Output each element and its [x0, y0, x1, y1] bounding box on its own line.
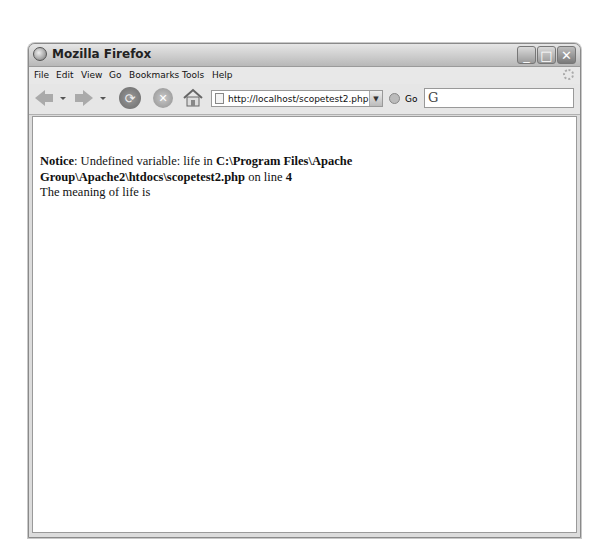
notice-line-number: 4 [286, 170, 292, 184]
title-bar[interactable]: Mozilla Firefox _ □ ✕ [29, 44, 580, 67]
menu-view[interactable]: View [81, 70, 102, 80]
menu-edit[interactable]: Edit [56, 70, 73, 80]
maximize-icon: □ [540, 49, 552, 62]
search-box[interactable]: G [424, 88, 574, 108]
page-icon [215, 93, 224, 104]
notice-message: : Undefined variable: life in [74, 154, 216, 168]
menu-help[interactable]: Help [212, 70, 233, 80]
close-icon: ✕ [561, 49, 572, 62]
window-title: Mozilla Firefox [52, 47, 151, 61]
throbber-icon [563, 69, 574, 80]
minimize-button[interactable]: _ [517, 46, 536, 64]
minimize-icon: _ [523, 49, 530, 62]
stop-icon: ✕ [158, 92, 167, 105]
go-button[interactable]: Go [389, 93, 417, 104]
back-dropdown-icon[interactable] [60, 97, 66, 100]
notice-on-line: on line [245, 170, 286, 184]
address-bar[interactable]: http://localhost/scopetest2.php ▼ [211, 90, 383, 107]
menu-bookmarks[interactable]: Bookmarks [129, 70, 179, 80]
reload-button[interactable]: ⟳ [119, 87, 141, 109]
go-label: Go [405, 94, 417, 104]
menu-tools[interactable]: Tools [182, 70, 204, 80]
reload-icon: ⟳ [125, 91, 136, 106]
menu-go[interactable]: Go [109, 70, 121, 80]
notice-label: Notice [40, 154, 74, 168]
back-button[interactable] [33, 89, 55, 107]
page-content: Notice: Undefined variable: life in C:\P… [32, 116, 577, 533]
php-output: Notice: Undefined variable: life in C:\P… [40, 154, 440, 201]
navigation-toolbar: ⟳ ✕ http://localhost/scopetest2.php ▼ Go… [29, 84, 580, 115]
home-button[interactable] [182, 87, 204, 109]
forward-dropdown-icon[interactable] [100, 97, 106, 100]
back-arrow-icon [35, 90, 45, 106]
url-input[interactable]: http://localhost/scopetest2.php [228, 94, 369, 104]
browser-window: Mozilla Firefox _ □ ✕ File Edit View Go … [28, 43, 581, 538]
search-engine-icon[interactable]: G [428, 90, 438, 105]
firefox-logo-icon [33, 47, 47, 61]
home-icon [182, 87, 204, 109]
menu-file[interactable]: File [34, 70, 49, 80]
stop-button[interactable]: ✕ [153, 88, 173, 108]
close-button[interactable]: ✕ [557, 46, 576, 64]
maximize-button[interactable]: □ [537, 46, 556, 64]
forward-arrow-icon [83, 90, 93, 106]
url-history-dropdown[interactable]: ▼ [369, 91, 382, 106]
output-text: The meaning of life is [40, 185, 150, 199]
menu-bar: File Edit View Go Bookmarks Tools Help [29, 67, 580, 84]
go-icon [389, 93, 400, 104]
forward-button[interactable] [73, 89, 95, 107]
